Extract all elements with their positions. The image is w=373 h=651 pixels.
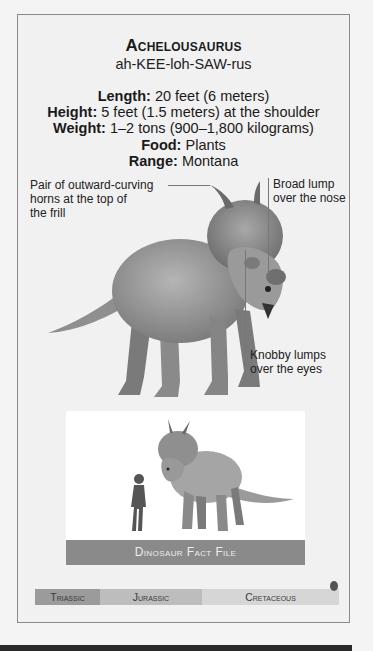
geologic-timeline: Triassic Jurassic Cretaceous — [35, 589, 339, 605]
callout-nose: Broad lump over the nose — [273, 177, 346, 205]
fact-height: Height: 5 feet (1.5 meters) at the shoul… — [18, 104, 349, 120]
leader-line-horns — [168, 185, 210, 186]
dinosaur-silhouette-icon — [158, 419, 294, 531]
facts-list: Length: 20 feet (6 meters) Height: 5 fee… — [18, 88, 349, 169]
timeline-jurassic: Jurassic — [100, 589, 202, 605]
fact-weight: Weight: 1–2 tons (900–1,800 kilograms) — [18, 120, 349, 136]
fact-file-banner: Dinosaur Fact File — [66, 540, 305, 565]
fact-range: Range: Montana — [18, 153, 349, 169]
human-silhouette-icon — [131, 474, 146, 531]
fact-food: Food: Plants — [18, 137, 349, 153]
fact-card: Achelousaurus ah-KEE-loh-SAW-rus Length:… — [17, 14, 350, 623]
timeline-triassic: Triassic — [35, 589, 100, 605]
dinosaur-name: Achelousaurus — [18, 36, 349, 56]
scale-comparison-illustration — [66, 411, 305, 541]
timeline-marker-dot-icon — [330, 581, 338, 591]
callout-horns: Pair of outward-curving horns at the top… — [30, 178, 153, 220]
pronunciation: ah-KEE-loh-SAW-rus — [18, 56, 349, 72]
fact-length: Length: 20 feet (6 meters) — [18, 88, 349, 104]
bottom-dark-strip — [0, 645, 352, 651]
timeline-cretaceous: Cretaceous — [202, 589, 339, 605]
leader-line-nose — [268, 178, 269, 278]
callout-eyes: Knobby lumps over the eyes — [250, 348, 326, 376]
leader-line-eyes — [245, 250, 246, 380]
